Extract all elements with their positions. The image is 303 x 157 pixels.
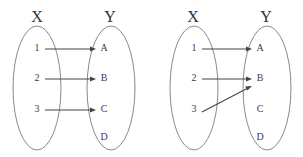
right-codomain-ellipse — [243, 26, 291, 150]
left-arrow-1-to-a — [45, 47, 96, 52]
right-codomain-element-a: A — [256, 42, 264, 53]
right-arrow-1-to-a — [202, 47, 252, 52]
left-diagram: X 1 2 3 Y A B C D — [13, 8, 135, 150]
right-domain-element-3: 3 — [192, 103, 197, 114]
right-domain-element-2: 2 — [192, 72, 197, 83]
left-arrow-2-to-b — [45, 77, 96, 82]
right-domain-label: X — [187, 8, 199, 25]
right-codomain-label: Y — [260, 8, 272, 25]
left-domain-label: X — [31, 8, 43, 25]
right-codomain-element-d: D — [256, 131, 263, 142]
left-domain-element-2: 2 — [35, 72, 40, 83]
left-codomain-element-a: A — [100, 42, 108, 53]
left-codomain-ellipse — [87, 26, 135, 150]
left-domain-element-3: 3 — [35, 103, 40, 114]
left-codomain-element-b: B — [101, 72, 108, 83]
left-codomain-element-d: D — [100, 131, 107, 142]
left-codomain-label: Y — [104, 8, 116, 25]
right-arrow-2-to-b — [202, 77, 252, 82]
right-domain-element-1: 1 — [192, 42, 197, 53]
mapping-diagrams: X 1 2 3 Y A B C D — [0, 0, 303, 157]
right-codomain-element-b: B — [257, 72, 264, 83]
left-codomain-element-c: C — [101, 103, 108, 114]
left-domain-element-1: 1 — [35, 42, 40, 53]
figure-canvas: X 1 2 3 Y A B C D — [0, 0, 303, 157]
right-diagram: X 1 2 3 Y A B C D — [170, 8, 291, 150]
right-codomain-element-c: C — [257, 103, 264, 114]
